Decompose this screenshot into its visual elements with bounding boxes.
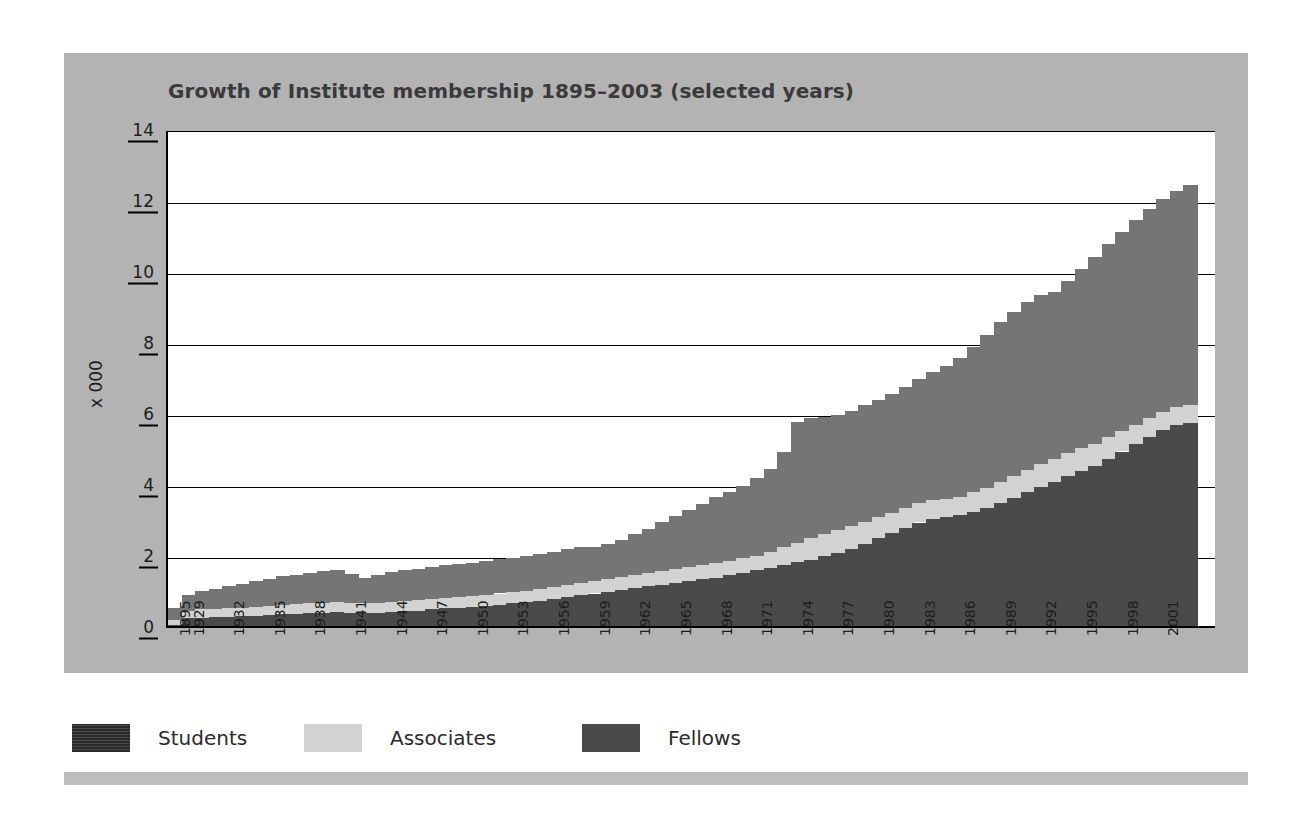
area-segment-associates: [750, 556, 765, 571]
area-segment-associates: [1183, 405, 1198, 423]
area-segment-students: [303, 573, 318, 604]
legend-label: Students: [158, 726, 247, 750]
area-segment-associates: [1088, 444, 1103, 466]
area-segment-fellows: [655, 585, 670, 628]
area-segment-fellows: [736, 573, 751, 628]
area-segment-fellows: [980, 508, 995, 628]
area-segment-associates: [1034, 464, 1049, 487]
area-segment-fellows: [533, 601, 548, 628]
area-segment-fellows: [452, 608, 467, 628]
area-segment-students: [533, 554, 548, 588]
area-segment-students: [357, 578, 372, 604]
x-tick-label: 1992: [1043, 600, 1059, 636]
area-segment-students: [709, 497, 724, 563]
chart-page: Growth of Institute membership 1895–2003…: [0, 0, 1313, 819]
x-tick-label: 1962: [637, 600, 653, 636]
area-segment-fellows: [574, 595, 589, 628]
y-tick-label: 0: [139, 617, 164, 640]
area-segment-students: [1034, 295, 1049, 464]
x-tick-label: 1971: [759, 600, 775, 636]
x-tick-label: 1983: [922, 600, 938, 636]
area-segment-students: [655, 522, 670, 571]
area-segment-fellows: [1156, 430, 1171, 628]
area-segment-students: [858, 405, 873, 521]
x-tick-label: 1974: [800, 600, 816, 636]
x-tick-label: 1959: [597, 600, 613, 636]
area-segment-students: [1061, 281, 1076, 453]
students-swatch: [72, 724, 130, 752]
x-tick-label: 1953: [515, 600, 531, 636]
legend-label: Associates: [390, 726, 496, 750]
area-segment-associates: [682, 567, 697, 581]
area-segment-associates: [330, 602, 345, 612]
x-tick-label: 1977: [840, 600, 856, 636]
x-tick-label: 1947: [434, 600, 450, 636]
x-tick-label: 1935: [272, 600, 288, 636]
area-segment-fellows: [1183, 423, 1198, 628]
legend-item-students[interactable]: Students: [72, 718, 247, 758]
area-segment-students: [1183, 185, 1198, 405]
x-tick-label: 1986: [962, 600, 978, 636]
x-tick-label: 1941: [353, 600, 369, 636]
x-tick-label: 1932: [231, 600, 247, 636]
x-tick-label: 2001: [1165, 600, 1181, 636]
associates-swatch: [304, 724, 362, 752]
gridline: [168, 274, 1215, 275]
area-segment-associates: [601, 579, 616, 592]
area-segment-associates: [249, 607, 264, 616]
area-segment-students: [1088, 257, 1103, 443]
area-segment-students: [574, 547, 589, 583]
y-tick-label: 12: [128, 191, 164, 214]
area-segment-students: [926, 372, 941, 500]
area-segment-students: [330, 570, 345, 603]
area-segment-associates: [953, 497, 968, 515]
x-tick-label: 1929: [191, 600, 207, 636]
area-segment-fellows: [777, 565, 792, 628]
x-tick-label: 1995: [1084, 600, 1100, 636]
x-tick-label: 1980: [881, 600, 897, 636]
x-tick-label: 1938: [312, 600, 328, 636]
area-segment-associates: [912, 503, 927, 523]
area-segment-students: [750, 478, 765, 555]
plot-inner: [168, 132, 1215, 628]
legend-label: Fellows: [668, 726, 741, 750]
area-segment-students: [479, 561, 494, 595]
area-segment-associates: [980, 488, 995, 509]
fellows-swatch: [582, 724, 640, 752]
area-segment-students: [953, 358, 968, 497]
area-segment-students: [885, 394, 900, 513]
area-segment-associates: [926, 500, 941, 519]
legend-item-fellows[interactable]: Fellows: [582, 718, 741, 758]
gridline: [168, 203, 1215, 204]
area-segment-students: [831, 415, 846, 530]
plot-area: [166, 131, 1215, 628]
area-segment-associates: [628, 575, 643, 588]
footer-bar: [64, 772, 1248, 785]
y-tick-label: 8: [139, 333, 164, 356]
y-tick-label: 10: [128, 262, 164, 285]
area-segment-associates: [547, 587, 562, 599]
area-segment-students: [980, 335, 995, 488]
area-segment-associates: [777, 547, 792, 565]
area-segment-students: [398, 570, 413, 601]
x-tick-label: 1956: [556, 600, 572, 636]
area-segment-associates: [885, 513, 900, 534]
y-tick-label: 4: [139, 475, 164, 498]
area-segment-students: [804, 418, 819, 538]
area-segment-students: [682, 510, 697, 568]
area-segment-fellows: [1061, 476, 1076, 628]
area-segment-associates: [655, 571, 670, 584]
area-segment-students: [452, 564, 467, 597]
area-segment-associates: [736, 558, 751, 573]
area-segment-students: [547, 552, 562, 587]
area-segment-students: [371, 575, 386, 603]
area-segment-associates: [1115, 431, 1130, 452]
y-tick-label: 6: [139, 404, 164, 427]
x-tick-label: 1968: [719, 600, 735, 636]
area-segment-associates: [1129, 425, 1144, 445]
area-segment-associates: [533, 589, 548, 601]
y-axis-label: x 000: [86, 360, 106, 408]
legend-item-associates[interactable]: Associates: [304, 718, 496, 758]
area-segment-associates: [858, 522, 873, 544]
area-segment-associates: [1061, 453, 1076, 476]
